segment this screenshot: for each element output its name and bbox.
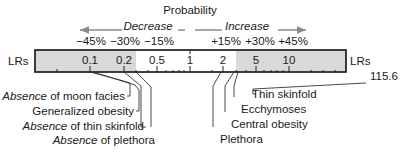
percent-label-minus45: −45% <box>76 35 106 47</box>
finding-thin-skinfold: Thin skinfold <box>252 88 317 100</box>
percent-label-minus15: −15% <box>144 35 174 47</box>
axis-label-right: LRs <box>350 55 371 67</box>
decrease-label: Decrease <box>123 20 172 32</box>
finding-absence-thin-skinfold: Absence of thin skinfold <box>22 120 144 132</box>
increase-label: Increase <box>225 20 269 32</box>
percent-label-plus30: +30% <box>245 35 275 47</box>
percent-label-plus15: +15% <box>211 35 241 47</box>
lr-nomogram-diagram: Probability Decrease Increase −45% −30% … <box>0 0 417 156</box>
tick-label-0.1: 0.1 <box>82 54 98 66</box>
tick-label-5: 5 <box>253 54 259 66</box>
finding-absence-plethora: Absence of plethora <box>52 134 156 146</box>
finding-plethora: Plethora <box>220 133 263 145</box>
percent-label-plus45: +45% <box>278 35 308 47</box>
axis-label-left: LRs <box>8 55 29 67</box>
finding-generalized-obesity: Generalized obesity <box>32 105 134 117</box>
finding-central-obesity: Central obesity <box>231 118 308 130</box>
diagram-title: Probability <box>163 4 217 16</box>
tick-label-0.2: 0.2 <box>116 54 132 66</box>
outlier-value-label: 115.6 <box>370 70 398 82</box>
finding-ecchymoses: Ecchymoses <box>241 103 306 115</box>
tick-label-0.5: 0.5 <box>149 54 165 66</box>
tick-label-10: 10 <box>283 54 296 66</box>
tick-label-2: 2 <box>220 54 226 66</box>
finding-absence-moon-facies: Absence of moon facies <box>1 90 125 102</box>
percent-label-minus30: −30% <box>110 35 140 47</box>
tick-label-1: 1 <box>187 54 193 66</box>
